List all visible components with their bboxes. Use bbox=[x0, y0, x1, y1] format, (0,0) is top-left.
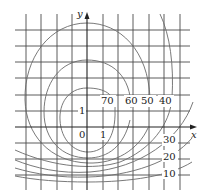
y-axis-label: y bbox=[76, 8, 83, 19]
y-tick-1-label: 1 bbox=[79, 105, 85, 116]
contour-label-20: 20 bbox=[163, 151, 176, 162]
contour-label-60: 60 bbox=[125, 95, 138, 106]
contour-map: y x 0 1 1 70 60 50 40 30 20 10 bbox=[0, 0, 208, 196]
contour-label-10: 10 bbox=[163, 168, 176, 179]
contour-label-30: 30 bbox=[163, 134, 176, 145]
contour-label-50: 50 bbox=[141, 95, 154, 106]
y-axis-arrow-icon bbox=[85, 12, 90, 19]
x-tick-1-label: 1 bbox=[100, 129, 106, 140]
contour-label-40: 40 bbox=[159, 95, 172, 106]
x-axis-label: x bbox=[191, 129, 197, 140]
origin-label: 0 bbox=[79, 129, 85, 140]
contour-label-70: 70 bbox=[101, 95, 114, 106]
